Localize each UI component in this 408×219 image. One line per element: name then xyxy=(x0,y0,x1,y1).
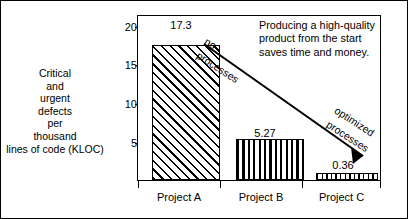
callout-note-line: saves time and money. xyxy=(259,46,383,59)
y-axis-title-line: urgent xyxy=(1,92,109,105)
x-tick-mark-right xyxy=(380,181,381,188)
bar-chart-figure: Critical and urgent defects per thousand… xyxy=(0,0,408,219)
y-axis-title-line: Critical xyxy=(1,67,109,80)
callout-note-line: product from the start xyxy=(259,32,383,45)
bar-project-b[interactable] xyxy=(236,139,304,180)
y-axis-title: Critical and urgent defects per thousand… xyxy=(1,67,109,155)
callout-note: Producing a high-quality product from th… xyxy=(259,19,383,59)
x-tick-mark-1 xyxy=(220,181,221,188)
x-tick-mark-left xyxy=(138,181,139,188)
y-axis-title-line: and xyxy=(1,80,109,93)
bar-value-project-b: 5.27 xyxy=(229,127,301,139)
bar-value-project-c: 0.36 xyxy=(313,159,373,171)
bar-value-project-a: 17.3 xyxy=(145,19,217,31)
x-axis-label-project-c: Project C xyxy=(302,191,381,203)
y-axis-title-line: thousand xyxy=(1,130,109,143)
y-axis-title-line: defects xyxy=(1,105,109,118)
y-axis: 20 15 10 5 xyxy=(105,1,137,219)
y-axis-title-line: per xyxy=(1,117,109,130)
callout-note-line: Producing a high-quality xyxy=(259,19,383,32)
x-axis-label-project-b: Project B xyxy=(220,191,302,203)
y-tick-label-15: 15 xyxy=(111,59,137,71)
y-axis-title-line: lines of code (KLOC) xyxy=(1,143,109,156)
y-tick-label-5: 5 xyxy=(111,137,137,149)
y-tick-label-10: 10 xyxy=(111,98,137,110)
y-tick-label-20: 20 xyxy=(111,21,137,33)
x-axis-label-project-a: Project A xyxy=(138,191,220,203)
bar-project-c[interactable] xyxy=(316,173,378,180)
x-tick-mark-2 xyxy=(302,181,303,188)
